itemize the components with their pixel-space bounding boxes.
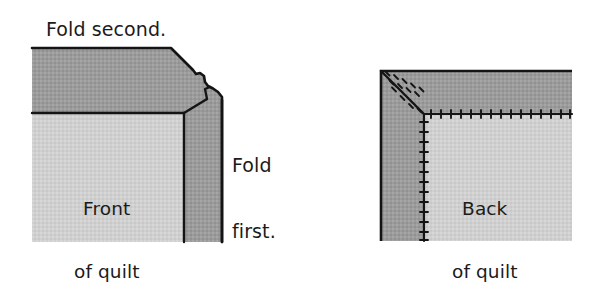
front-of-quilt-line1: Front	[74, 198, 140, 219]
back-of-quilt-label: Back of quilt	[452, 156, 518, 286]
fold-first-line1: Fold	[232, 154, 276, 176]
binding-top-band	[32, 48, 222, 113]
back-of-quilt-line1: Back	[452, 198, 518, 219]
fold-first-line2: first.	[232, 220, 276, 242]
binding-right-band	[184, 100, 222, 242]
fold-first-label: Fold first.	[232, 110, 276, 286]
fold-second-label: Fold second.	[46, 18, 166, 40]
back-of-quilt-line2: of quilt	[452, 261, 518, 282]
front-of-quilt-label: Front of quilt	[74, 156, 140, 286]
front-of-quilt-line2: of quilt	[74, 261, 140, 282]
